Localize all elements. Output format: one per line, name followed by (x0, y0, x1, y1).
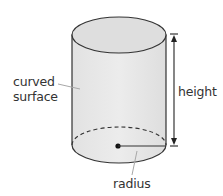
height-label: height (178, 84, 217, 99)
height-arrow (170, 34, 178, 146)
curved-surface-label-line1: curved (13, 74, 58, 89)
curved-surface-label: curved surface (13, 74, 58, 104)
radius-label: radius (113, 176, 150, 191)
curved-surface-label-line2: surface (13, 89, 58, 104)
cylinder-top-face (72, 17, 166, 53)
